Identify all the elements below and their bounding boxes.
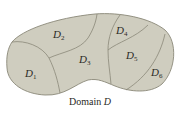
caption-prefix: Domain [69,96,101,107]
caption-symbol: D [104,96,111,107]
diagram-caption: Domain D [0,96,180,107]
domain-outline [7,14,174,95]
